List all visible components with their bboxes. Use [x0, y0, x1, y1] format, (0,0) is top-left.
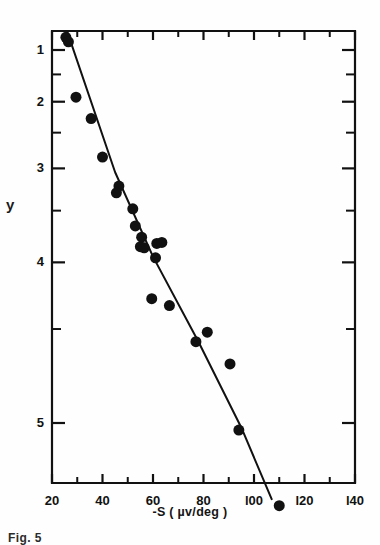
y-tick-label: 1: [30, 43, 44, 56]
chart-background: [0, 0, 380, 545]
data-point: [111, 187, 122, 198]
data-point: [225, 358, 236, 369]
data-point: [190, 336, 201, 347]
y-tick-label: 3: [30, 161, 44, 174]
data-point: [86, 113, 97, 124]
data-point: [202, 327, 213, 338]
data-point: [97, 152, 108, 163]
scatter-chart: [0, 0, 380, 545]
data-point: [139, 242, 150, 253]
y-tick-label: 5: [30, 416, 44, 429]
y-tick-label: 4: [30, 255, 44, 268]
data-point: [70, 92, 81, 103]
figure-caption: Fig. 5: [8, 531, 198, 545]
y-axis-title: y: [6, 196, 14, 213]
y-tick-label: 2: [30, 95, 44, 108]
data-point: [146, 293, 157, 304]
x-axis-title-suffix: ): [223, 505, 227, 519]
x-tick-label: l20: [293, 494, 317, 507]
x-tick-label: 60: [141, 494, 165, 507]
data-point: [127, 203, 138, 214]
data-point: [156, 237, 167, 248]
data-point: [130, 220, 141, 231]
data-point: [63, 36, 74, 47]
x-tick-label: l00: [242, 494, 266, 507]
data-point: [150, 252, 161, 263]
data-point: [164, 300, 175, 311]
x-tick-label: 40: [91, 494, 115, 507]
x-tick-label: l40: [343, 494, 367, 507]
data-point: [136, 232, 147, 243]
x-tick-label: 20: [40, 494, 64, 507]
x-tick-label: 80: [192, 494, 216, 507]
data-point: [233, 425, 244, 436]
